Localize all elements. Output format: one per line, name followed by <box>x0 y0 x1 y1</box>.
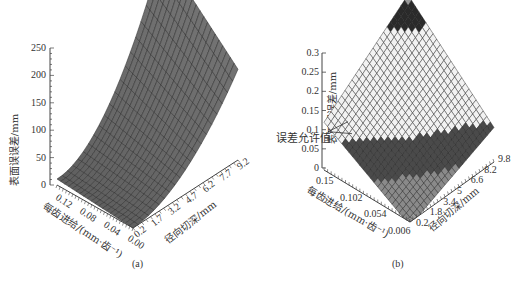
z-tick-label: 50 <box>36 152 46 163</box>
z-tick-label: 200 <box>31 69 46 80</box>
z-tick-label: 0.15 <box>302 105 320 116</box>
z-tick-label: 150 <box>31 97 46 108</box>
y-tick-label: 9.8 <box>498 153 511 164</box>
z-tick-label: 0.3 <box>307 47 320 58</box>
z-axis-label: 表面误误差/mm <box>8 113 20 186</box>
y-tick-label: 7.7 <box>217 167 234 183</box>
z-tick-label: 0.2 <box>307 85 320 96</box>
surface-plot-a: 050100150200250表面误误差/mm0.120.080.040.000… <box>0 0 262 283</box>
z-tick-label: 100 <box>31 124 46 135</box>
y-tick-label: 8.2 <box>484 164 497 175</box>
x-tick-label: 0.15 <box>316 175 334 186</box>
y-tick-label: 3.2 <box>166 201 183 217</box>
caption-b: (b) <box>392 258 404 269</box>
x-tick-label: 0.006 <box>388 225 411 236</box>
y-tick-label: 1.7 <box>149 212 166 228</box>
y-tick-label: 6.6 <box>471 174 484 185</box>
caption-a: (a) <box>132 258 143 269</box>
x-tick-label: 0.102 <box>340 192 363 203</box>
y-tick-label: 5 <box>457 185 462 196</box>
surface-plot-b: 00.050.10.150.20.250.3表面误误差/mm0.150.1020… <box>262 0 524 283</box>
y-tick-label: 4.7 <box>183 189 200 205</box>
x-tick-label: 0.08 <box>78 205 99 224</box>
z-tick-label: 0 <box>41 179 46 190</box>
panel-b: 00.050.10.150.20.250.3表面误误差/mm0.150.1020… <box>262 0 524 283</box>
x-tick-label: 0.04 <box>102 219 123 238</box>
tolerance-annotation: 误差允许值 <box>276 131 331 145</box>
y-tick-label: 6.2 <box>200 178 217 194</box>
z-tick-label: 0.25 <box>302 66 320 77</box>
y-tick-label: 9.2 <box>234 155 251 171</box>
panel-a: 050100150200250表面误误差/mm0.120.080.040.000… <box>0 0 262 283</box>
z-tick-label: 250 <box>31 42 46 53</box>
surface-mesh-a <box>57 0 238 228</box>
z-tick-label: 0 <box>314 162 319 173</box>
